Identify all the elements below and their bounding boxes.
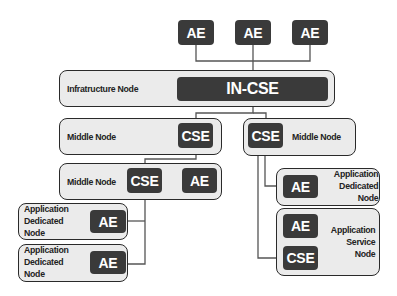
adn-left-2-ae: AE (90, 251, 126, 274)
asn-right-label: Application Service Node (330, 224, 375, 260)
top-ae-3: AE (292, 20, 328, 45)
adn-left-2-label: Application Dedicated Node (24, 244, 69, 280)
adn-left-1-label: Application Dedicated Node (24, 203, 69, 239)
middle-node-lower-cse: CSE (127, 168, 162, 193)
middle-node-lower-label: Middle Node (67, 176, 116, 188)
top-ae-1: AE (178, 20, 214, 45)
adn-right-label: Application Dedicated Node (333, 168, 378, 204)
middle-node-right-label: Middle Node (292, 131, 341, 143)
middle-node-right-cse: CSE (248, 123, 283, 148)
middle-node-lower-ae: AE (182, 168, 217, 193)
asn-right-ae: AE (283, 214, 318, 238)
asn-right-cse: CSE (283, 246, 318, 270)
adn-right-ae: AE (283, 175, 318, 198)
in-cse: IN-CSE (177, 77, 328, 101)
infrastructure-node-label: Infratructure Node (67, 83, 138, 95)
adn-left-1-ae: AE (90, 210, 126, 233)
middle-node-left-label: Middle Node (67, 131, 116, 143)
top-ae-2: AE (235, 20, 271, 45)
middle-node-left-cse: CSE (178, 123, 213, 148)
